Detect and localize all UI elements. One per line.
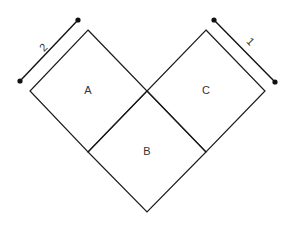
dimension-line-left: 2 xyxy=(17,17,80,83)
endpoint-dot xyxy=(272,79,277,84)
square-label-c: C xyxy=(202,84,210,96)
endpoint-dot xyxy=(211,17,216,22)
endpoint-dot xyxy=(17,78,22,83)
dimension-label-right: 1 xyxy=(244,35,257,48)
diagram-canvas: 2 1 A B C xyxy=(0,0,288,225)
square-label-a: A xyxy=(84,84,92,96)
square-label-b: B xyxy=(143,145,150,157)
dimension-line-right: 1 xyxy=(211,17,277,84)
endpoint-dot xyxy=(75,17,80,22)
